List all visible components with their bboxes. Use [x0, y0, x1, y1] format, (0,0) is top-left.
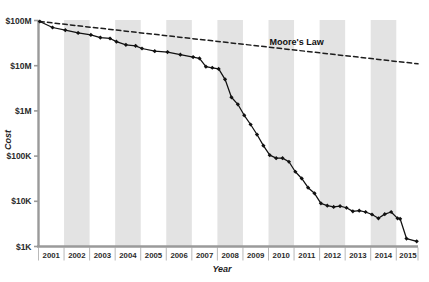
year-band-2004: [115, 20, 141, 247]
chart-canvas: $100M$10M$1M$100K$10K$1K 200120022003200…: [0, 0, 429, 282]
x-tick-label-2014: 2014: [375, 251, 393, 260]
data-point-17: [210, 66, 214, 70]
x-tick-label-2011: 2011: [298, 251, 316, 260]
x-tick-label-2002: 2002: [68, 251, 86, 260]
x-tick-label-2009: 2009: [247, 251, 265, 260]
x-tick-label-2004: 2004: [119, 251, 137, 260]
data-point-5: [98, 35, 102, 39]
data-point-6: [108, 36, 112, 40]
y-tick-label-$100K: $100K: [6, 151, 32, 161]
x-tick-label-2003: 2003: [94, 251, 112, 260]
x-axis-tick-labels: 2001200220032004200520062007200820092010…: [43, 251, 418, 260]
data-point-49: [415, 239, 419, 243]
x-tick-label-2001: 2001: [43, 251, 61, 260]
year-bands: [64, 20, 396, 247]
year-band-2008: [217, 20, 243, 247]
x-tick-label-2013: 2013: [349, 251, 367, 260]
y-tick-label-$100M: $100M: [6, 16, 32, 26]
y-tick-label-$10M: $10M: [10, 61, 31, 71]
y-tick-label-$1K: $1K: [16, 242, 32, 252]
x-tick-label-2010: 2010: [273, 251, 291, 260]
y-axis-title: Cost: [3, 129, 13, 150]
x-tick-label-2008: 2008: [221, 251, 239, 260]
y-tick-label-$1M: $1M: [15, 106, 32, 116]
year-band-2010: [269, 20, 295, 247]
x-tick-label-2007: 2007: [196, 251, 213, 260]
year-band-2002: [64, 20, 90, 247]
annotation-moores-law: Moore's Law: [270, 37, 325, 47]
x-tick-label-2006: 2006: [170, 251, 188, 260]
x-tick-label-2015: 2015: [399, 251, 417, 260]
data-point-41: [364, 210, 368, 214]
x-tick-label-2012: 2012: [324, 251, 342, 260]
chart-annotations: Moore's Law: [270, 37, 325, 47]
data-point-48: [404, 236, 408, 240]
x-tick-label-2005: 2005: [145, 251, 163, 260]
data-point-40: [357, 209, 361, 213]
cost-per-genome-chart: $100M$10M$1M$100K$10K$1K 200120022003200…: [0, 0, 429, 282]
data-point-1: [50, 25, 54, 29]
data-point-11: [153, 49, 157, 53]
y-tick-label-$10K: $10K: [11, 196, 32, 206]
x-axis-title: Year: [212, 264, 232, 274]
